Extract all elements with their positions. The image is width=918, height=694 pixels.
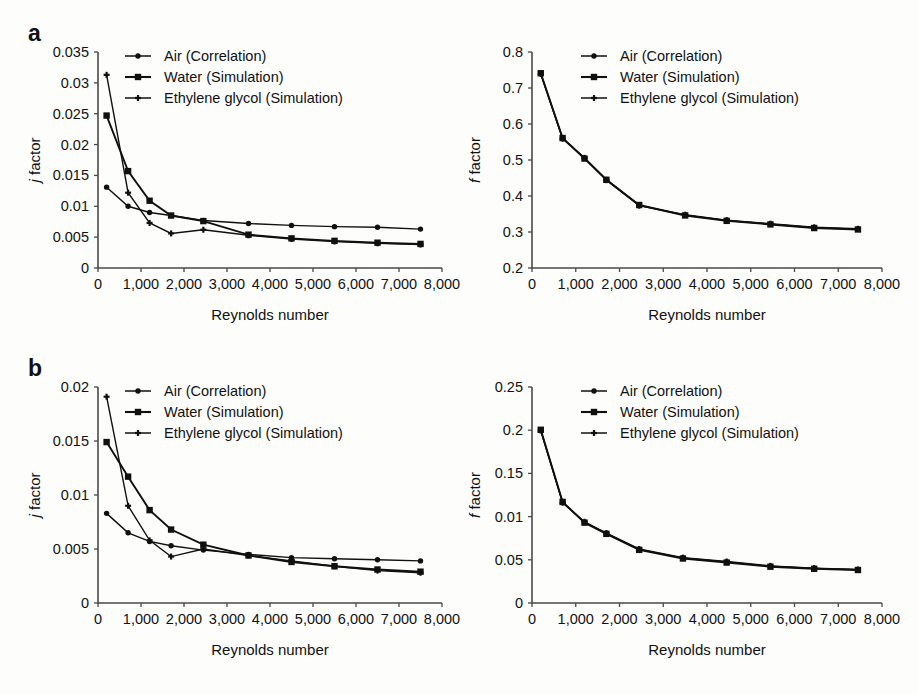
y-tick-label: 0 bbox=[515, 595, 523, 611]
y-tick-label: 0.02 bbox=[61, 379, 89, 395]
legend-label-water: Water (Simulation) bbox=[620, 69, 740, 85]
series-marker bbox=[104, 184, 109, 189]
x-tick-label: 0 bbox=[94, 611, 102, 627]
series-line bbox=[107, 187, 421, 229]
x-tick-label: 3,000 bbox=[209, 611, 245, 627]
legend-label-air: Air (Correlation) bbox=[164, 383, 266, 399]
y-tick-label: 0.01 bbox=[61, 487, 89, 503]
x-tick-label: 5,000 bbox=[295, 611, 331, 627]
x-tick-label: 5,000 bbox=[733, 276, 769, 292]
series-marker bbox=[125, 473, 131, 479]
chart-panel-b-j-factor: 00.0050.010.0150.0201,0002,0003,0004,000… bbox=[20, 365, 460, 685]
x-tick-label: 5,000 bbox=[733, 611, 769, 627]
y-tick-label: 0.25 bbox=[495, 379, 523, 395]
x-tick-label: 7,000 bbox=[820, 276, 856, 292]
y-tick-label: 0.5 bbox=[503, 152, 523, 168]
legend-label-ethylene: Ethylene glycol (Simulation) bbox=[164, 425, 343, 441]
series-marker bbox=[168, 212, 174, 218]
legend-marker-water bbox=[125, 74, 151, 80]
x-axis-title: Reynolds number bbox=[648, 306, 766, 323]
series-line bbox=[107, 397, 421, 573]
y-tick-label: 0.4 bbox=[503, 188, 523, 204]
legend-marker-water bbox=[125, 409, 151, 415]
legend-label-air: Air (Correlation) bbox=[164, 48, 266, 64]
x-tick-label: 2,000 bbox=[601, 611, 637, 627]
legend-label-water: Water (Simulation) bbox=[620, 404, 740, 420]
y-tick-label: 0.005 bbox=[53, 541, 89, 557]
series-marker bbox=[289, 223, 294, 228]
chart-panel-a-f-factor: 0.20.30.40.50.60.70.801,0002,0003,0004,0… bbox=[462, 30, 902, 350]
legend-label-air: Air (Correlation) bbox=[620, 48, 722, 64]
y-axis-title: j factor bbox=[26, 137, 43, 184]
y-tick-label: 0.15 bbox=[495, 465, 523, 481]
series-marker bbox=[246, 221, 251, 226]
legend-label-water: Water (Simulation) bbox=[164, 404, 284, 420]
y-tick-label: 0.7 bbox=[503, 80, 523, 96]
chart-a_right: 0.20.30.40.50.60.70.801,0002,0003,0004,0… bbox=[462, 30, 902, 350]
x-tick-label: 4,000 bbox=[689, 611, 725, 627]
y-tick-label: 0 bbox=[81, 260, 89, 276]
series-marker bbox=[375, 225, 380, 230]
x-tick-label: 0 bbox=[94, 276, 102, 292]
y-tick-label: 0.3 bbox=[503, 224, 523, 240]
legend-label-ethylene: Ethylene glycol (Simulation) bbox=[620, 90, 799, 106]
figure-canvas: a b 00.0050.010.0150.020.0250.030.03501,… bbox=[0, 0, 918, 694]
series-marker bbox=[147, 210, 152, 215]
y-tick-label: 0.015 bbox=[53, 167, 89, 183]
x-tick-label: 3,000 bbox=[645, 276, 681, 292]
series-line bbox=[107, 442, 421, 572]
legend-marker-air bbox=[581, 388, 607, 393]
legend-marker-ethylene bbox=[581, 95, 607, 101]
x-axis-title: Reynolds number bbox=[211, 641, 329, 658]
legend-marker-ethylene bbox=[125, 95, 151, 101]
series-marker bbox=[332, 224, 337, 229]
x-tick-label: 4,000 bbox=[689, 276, 725, 292]
x-tick-label: 4,000 bbox=[252, 611, 288, 627]
chart-panel-a-j-factor: 00.0050.010.0150.020.0250.030.03501,0002… bbox=[20, 30, 460, 350]
legend-label-ethylene: Ethylene glycol (Simulation) bbox=[164, 90, 343, 106]
legend-label-water: Water (Simulation) bbox=[164, 69, 284, 85]
series-marker bbox=[125, 530, 130, 535]
series-marker bbox=[418, 558, 423, 563]
y-tick-label: 0.05 bbox=[495, 552, 523, 568]
legend-marker-water bbox=[581, 409, 607, 415]
series-marker bbox=[200, 227, 206, 233]
x-tick-label: 2,000 bbox=[166, 611, 202, 627]
y-tick-label: 0.6 bbox=[503, 116, 523, 132]
x-tick-label: 2,000 bbox=[601, 276, 637, 292]
x-tick-label: 6,000 bbox=[776, 276, 812, 292]
y-tick-label: 0.01 bbox=[61, 198, 89, 214]
x-tick-label: 3,000 bbox=[645, 611, 681, 627]
x-axis-title: Reynolds number bbox=[648, 641, 766, 658]
x-tick-label: 8,000 bbox=[424, 611, 460, 627]
legend-marker-air bbox=[581, 53, 607, 58]
x-tick-label: 8,000 bbox=[424, 276, 460, 292]
legend-marker-water bbox=[581, 74, 607, 80]
chart-panel-b-f-factor: 00.050.010.150.20.2501,0002,0003,0004,00… bbox=[462, 365, 902, 685]
legend-marker-ethylene bbox=[581, 430, 607, 436]
series-marker bbox=[332, 556, 337, 561]
series-line bbox=[541, 431, 858, 570]
x-tick-label: 1,000 bbox=[123, 611, 159, 627]
y-tick-label: 0.02 bbox=[61, 137, 89, 153]
y-axis-title: f factor bbox=[466, 472, 483, 518]
chart-a_left: 00.0050.010.0150.020.0250.030.03501,0002… bbox=[20, 30, 460, 350]
x-tick-label: 4,000 bbox=[252, 276, 288, 292]
x-tick-label: 3,000 bbox=[209, 276, 245, 292]
y-tick-label: 0.015 bbox=[53, 433, 89, 449]
y-tick-label: 0.2 bbox=[503, 422, 523, 438]
chart-b_left: 00.0050.010.0150.0201,0002,0003,0004,000… bbox=[20, 365, 460, 685]
x-tick-label: 6,000 bbox=[338, 276, 374, 292]
legend-marker-ethylene bbox=[125, 430, 151, 436]
series-marker bbox=[168, 543, 173, 548]
y-tick-label: 0.2 bbox=[503, 260, 523, 276]
series-marker bbox=[146, 507, 152, 513]
series-marker bbox=[146, 198, 152, 204]
series-marker bbox=[418, 226, 423, 231]
y-tick-label: 0 bbox=[81, 595, 89, 611]
y-axis-title: f factor bbox=[466, 137, 483, 183]
series-line bbox=[541, 430, 858, 570]
chart-b_right: 00.050.010.150.20.2501,0002,0003,0004,00… bbox=[462, 365, 902, 685]
series-line bbox=[107, 513, 421, 561]
series-marker bbox=[168, 526, 174, 532]
